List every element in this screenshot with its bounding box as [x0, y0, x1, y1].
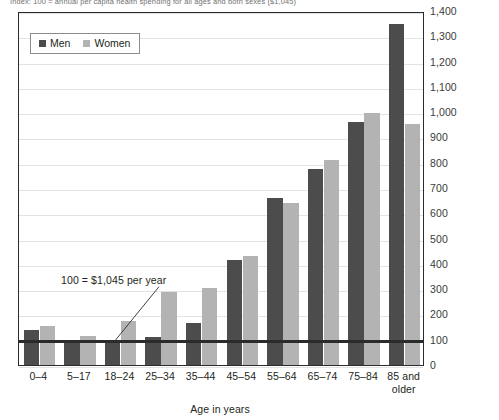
y-axis-tick-label: 1,200 [430, 56, 490, 68]
bar-group [303, 13, 344, 365]
x-axis-tick-label: 18–24 [99, 370, 140, 383]
bar-group [263, 13, 304, 365]
bar-men [105, 342, 121, 365]
y-axis-tick-label: 900 [430, 131, 490, 143]
bar-men [24, 330, 40, 365]
bar-group [384, 13, 425, 365]
bar-group [100, 13, 141, 365]
y-axis-tick-label: 1,100 [430, 81, 490, 93]
y-axis-ticks: 1,4001,3001,2001,1001,000900800700600500… [430, 0, 496, 380]
bar-group [181, 13, 222, 365]
y-axis-tick-label: 800 [430, 157, 490, 169]
reference-line-annotation: 100 = $1,045 per year [61, 274, 166, 286]
x-axis-labels: 0–45–1718–2425–3435–4445–5455–6465–7475–… [18, 370, 424, 404]
y-axis-tick-label: 1,000 [430, 106, 490, 118]
y-axis-tick-label: 300 [430, 283, 490, 295]
legend-item-men: Men [39, 37, 70, 49]
legend-label-men: Men [50, 37, 70, 49]
bar-women [324, 160, 340, 365]
x-axis-tick-label: 5–17 [59, 370, 100, 383]
bar-men [389, 24, 405, 365]
bar-women [364, 113, 380, 365]
x-axis-tick-label: 65–74 [302, 370, 343, 383]
bars-layer [19, 13, 423, 365]
x-axis-tick-label: 0–4 [18, 370, 59, 383]
y-axis-tick-label: 100 [430, 334, 490, 346]
x-axis-tick-label: 25–34 [140, 370, 181, 383]
x-axis-tick-label: 85 andolder [383, 370, 424, 395]
bar-women [243, 256, 259, 365]
y-axis-tick-label: 200 [430, 308, 490, 320]
legend-swatch-women-icon [83, 40, 90, 47]
y-axis-tick-label: 500 [430, 233, 490, 245]
bar-men [64, 342, 80, 365]
bar-group [19, 13, 60, 365]
y-axis-tick-label: 1,400 [430, 5, 490, 17]
x-axis-tick-label: 75–84 [343, 370, 384, 383]
plot-area: 100 = $1,045 per year [18, 12, 424, 366]
reference-line-100 [19, 340, 423, 343]
health-spending-by-age-chart: Index: 100 = annual per capita health sp… [0, 0, 499, 420]
legend-swatch-men-icon [39, 40, 46, 47]
y-axis-tick-label: 700 [430, 182, 490, 194]
bar-group [222, 13, 263, 365]
bar-men [348, 122, 364, 365]
bar-group [60, 13, 101, 365]
chart-source-note: Index: 100 = annual per capita health sp… [10, 0, 430, 7]
gridline [19, 367, 423, 368]
bar-group [344, 13, 385, 365]
bar-men [186, 323, 202, 365]
legend-label-women: Women [94, 37, 130, 49]
y-axis-tick-label: 1,300 [430, 30, 490, 42]
x-axis-tick-label: 55–64 [262, 370, 303, 383]
bar-women [40, 326, 56, 365]
x-axis-tick-label: 45–54 [221, 370, 262, 383]
bar-men [227, 260, 243, 365]
chart-legend: Men Women [30, 33, 140, 54]
bar-women [405, 124, 421, 365]
bar-group [141, 13, 182, 365]
x-axis-tick-label: 35–44 [180, 370, 221, 383]
bar-men [308, 169, 324, 365]
y-axis-tick-label: 600 [430, 207, 490, 219]
y-axis-tick-label: 400 [430, 258, 490, 270]
legend-item-women: Women [83, 37, 130, 49]
x-axis-title: Age in years [0, 403, 440, 415]
bar-women [161, 292, 177, 365]
bar-women [202, 288, 218, 365]
y-axis-tick-label: 0 [430, 359, 490, 371]
